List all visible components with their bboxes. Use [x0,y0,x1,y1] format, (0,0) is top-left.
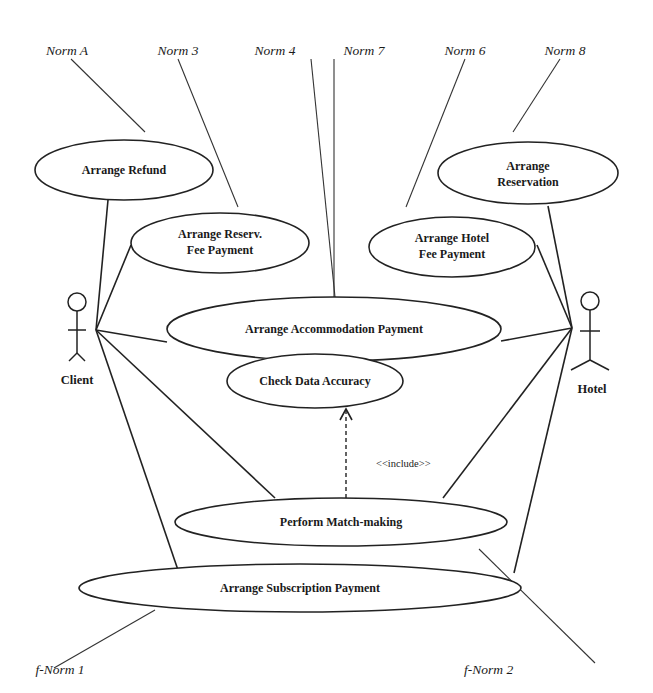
hotel-to-subscription-payment [514,328,572,573]
norm-7-label: Norm 7 [343,43,386,58]
use-case-label: Arrange Subscription Payment [220,581,380,595]
client-to-reserv-fee-payment [96,245,131,330]
use-case-label: Perform Match-making [280,515,402,529]
use-case-arrange-reserv-fee-payment[interactable]: Arrange Reserv. Fee Payment [131,213,309,273]
use-case-label-line2: Fee Payment [419,247,485,261]
use-case-check-data-accuracy[interactable]: Check Data Accuracy [227,354,403,408]
norm-3-label: Norm 3 [157,43,199,58]
use-case-label-line1: Arrange Reserv. [178,227,262,241]
use-case-arrange-refund[interactable]: Arrange Refund [35,140,213,200]
actor-hotel[interactable]: Hotel [571,292,609,396]
f-norm-2-connector [479,549,595,663]
use-case-label-line1: Arrange Hotel [415,231,490,245]
f-norm-1-connector [54,610,155,668]
use-case-label-line2: Fee Payment [187,243,253,257]
f-norm-1-label: f-Norm 1 [35,662,84,677]
norm-8-connector [513,59,560,132]
norm-6-label: Norm 6 [444,43,486,58]
stick-figure-icon [68,293,86,361]
actor-client[interactable]: Client [61,293,94,387]
include-stereotype-label: <<include>> [376,458,431,469]
use-case-label-line1: Arrange [506,159,550,173]
norm-4-connector [311,59,335,297]
norm-8-label: Norm 8 [544,43,586,58]
use-case-arrange-accommodation-payment[interactable]: Arrange Accommodation Payment [167,297,501,361]
use-case-label: Arrange Accommodation Payment [245,322,423,336]
hotel-to-arrange-reservation [548,206,572,328]
use-case-arrange-reservation[interactable]: Arrange Reservation [438,142,618,204]
norm-a-label: Norm A [45,43,89,58]
client-to-arrange-refund [96,200,108,330]
use-case-label: Check Data Accuracy [259,374,370,388]
use-case-label-line2: Reservation [497,175,559,189]
use-case-label: Arrange Refund [82,163,167,177]
use-case-perform-match-making[interactable]: Perform Match-making [175,498,507,546]
norm-a-connector [71,59,145,132]
hotel-to-accommodation-payment [501,328,572,341]
norm-4-label: Norm 4 [254,43,296,58]
stick-figure-icon [571,292,609,370]
include-relationship: <<include>> [340,409,431,498]
use-case-diagram: Arrange Refund Arrange Reserv. Fee Payme… [0,0,653,693]
hotel-to-hotel-fee-payment [537,245,572,328]
client-to-subscription-payment [96,330,179,573]
actor-label: Hotel [577,382,607,396]
use-case-arrange-hotel-fee-payment[interactable]: Arrange Hotel Fee Payment [369,217,535,277]
use-case-arrange-subscription-payment[interactable]: Arrange Subscription Payment [79,564,521,612]
actor-label: Client [61,373,94,387]
f-norm-2-label: f-Norm 2 [464,662,513,677]
